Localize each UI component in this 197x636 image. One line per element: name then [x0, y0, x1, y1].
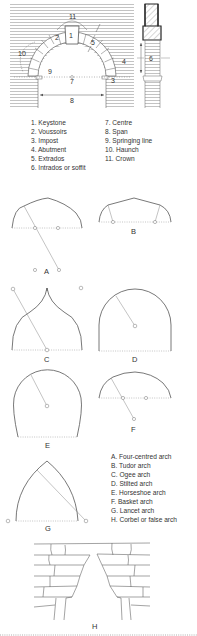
legend-item: 3. Impost: [31, 136, 86, 145]
legend-item: A. Four-centred arch: [111, 452, 177, 461]
legend-item: 7. Centre: [105, 118, 152, 127]
main-arch-elevation: 1 2 3 4 5 6 7 8 9 10 11: [10, 4, 153, 108]
legend-item: C. Ogee arch: [111, 470, 177, 479]
caption-h: H: [92, 622, 97, 631]
parts-legend-col2: 7. Centre 8. Span 9. Springing line 10. …: [105, 118, 152, 163]
arch-c-ogee: C: [11, 286, 83, 364]
arch-d-stilted: D: [99, 289, 171, 364]
legend-item: D. Stilted arch: [111, 479, 177, 488]
arch-b-tudor: B: [99, 198, 171, 236]
legend-item: F. Basket arch: [111, 497, 177, 506]
label-abutment: 4: [122, 58, 126, 65]
legend-item: 5. Extrados: [31, 154, 86, 163]
legend-item: 2. Voussoirs: [31, 127, 86, 136]
caption-d: D: [132, 355, 138, 364]
label-span: 8: [70, 97, 74, 104]
legend-item: E. Horseshoe arch: [111, 488, 177, 497]
caption-a: A: [44, 267, 49, 276]
legend-item: B. Tudor arch: [111, 461, 177, 470]
caption-e: E: [45, 441, 50, 450]
caption-f: F: [131, 425, 136, 434]
label-crown: 11: [69, 13, 76, 20]
label-keystone: 1: [69, 32, 73, 39]
arch-diagram: 1 2 3 4 5 6 7 8 9 10 11: [0, 0, 197, 636]
legend-item: H. Corbel or false arch: [111, 515, 177, 524]
label-extrados: 5: [91, 39, 95, 46]
legend-item: 1. Keystone: [31, 118, 86, 127]
parts-legend-col1: 1. Keystone 2. Voussoirs 3. Impost 4. Ab…: [31, 118, 86, 173]
label-centre: 7: [70, 78, 74, 85]
label-impost: 3: [111, 77, 115, 84]
arch-section-view: [137, 4, 170, 108]
arch-h-corbel: H: [34, 543, 150, 631]
legend-item: G. Lancet arch: [111, 506, 177, 515]
caption-c: C: [44, 355, 50, 364]
caption-g: G: [45, 524, 51, 533]
label-voussoirs: 2: [55, 34, 59, 41]
legend-item: 9. Springing line: [105, 136, 152, 145]
arch-g-lancet: G: [6, 461, 88, 533]
arch-e-horseshoe: E: [14, 370, 82, 450]
label-haunch: 10: [18, 50, 26, 57]
legend-item: 11. Crown: [105, 154, 152, 163]
legend-item: 4. Abutment: [31, 145, 86, 154]
arch-a-four-centred: A: [12, 198, 82, 276]
arch-types-legend: A. Four-centred arch B. Tudor arch C. Og…: [111, 452, 177, 524]
label-springing-line: 9: [48, 68, 52, 75]
arch-f-basket: F: [99, 372, 171, 434]
legend-item: 6. Intrados or soffit: [31, 163, 86, 172]
legend-item: 8. Span: [105, 127, 152, 136]
caption-b: B: [131, 227, 136, 236]
legend-item: 10. Haunch: [105, 145, 152, 154]
